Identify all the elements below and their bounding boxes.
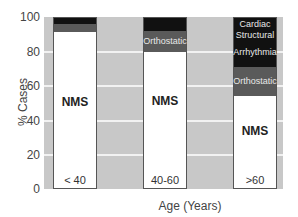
- nms-label: NMS: [54, 95, 96, 109]
- ytick-20: 20: [14, 149, 40, 161]
- y-axis-label: % Cases: [16, 67, 30, 137]
- segment-cardiac: Cardiac Structural Arrhythmia: [234, 18, 276, 67]
- category-label: < 40: [54, 174, 96, 186]
- orthostatic-label: Orthostatic: [233, 76, 277, 87]
- segment-cardiac: [144, 18, 186, 31]
- segment-orthostatic: Orthostatic: [234, 67, 276, 96]
- ytick-0: 0: [14, 183, 40, 195]
- bar-under-40: NMS < 40: [53, 17, 97, 189]
- arrhythmia-label: Arrhythmia: [233, 47, 277, 58]
- segment-orthostatic: [54, 24, 96, 32]
- category-label: >60: [234, 174, 276, 186]
- ytick-100: 100: [14, 11, 40, 23]
- category-label: 40-60: [144, 174, 186, 186]
- orthostatic-label: Orthostatic: [143, 36, 187, 47]
- segment-orthostatic: Orthostatic: [144, 31, 186, 52]
- nms-label: NMS: [234, 124, 276, 138]
- nms-label: NMS: [144, 94, 186, 108]
- segment-nms: NMS 40-60: [144, 52, 186, 188]
- ytick-80: 80: [14, 46, 40, 58]
- cardiac-structural-label: Cardiac Structural: [236, 19, 275, 41]
- x-axis-label: Age (Years): [130, 199, 250, 213]
- segment-nms: NMS < 40: [54, 32, 96, 188]
- bar-over-60: Cardiac Structural Arrhythmia Orthostati…: [233, 17, 277, 189]
- segment-nms: NMS >60: [234, 96, 276, 188]
- bar-40-60: Orthostatic NMS 40-60: [143, 17, 187, 189]
